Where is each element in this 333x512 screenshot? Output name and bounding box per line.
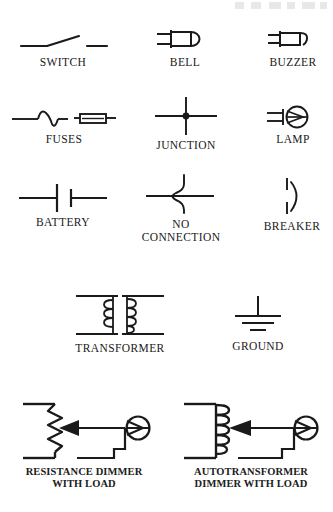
fuses-symbol: [10, 105, 118, 131]
symbol-cell-no-connection: NO CONNECTION: [126, 172, 236, 243]
resistance-dimmer-symbol: [7, 392, 162, 464]
symbol-cell-junction: JUNCTION: [134, 95, 238, 152]
symbol-cell-breaker: BREAKER: [252, 176, 332, 233]
junction-symbol: [149, 95, 223, 137]
lamp-symbol: [263, 103, 323, 131]
symbol-cell-autotransformer-dimmer: AUTOTRANSFORMER DIMMER WITH LOAD: [170, 392, 332, 489]
symbol-cell-transformer: TRANSFORMER: [58, 290, 182, 355]
switch-symbol: [17, 28, 109, 54]
symbol-label-battery: BATTERY: [36, 216, 90, 229]
symbol-label-breaker: BREAKER: [264, 220, 320, 233]
symbol-cell-bell: BELL: [140, 24, 230, 69]
symbol-label-resistance-dimmer: RESISTANCE DIMMER WITH LOAD: [26, 466, 143, 489]
symbol-cell-fuses: FUSES: [6, 105, 122, 146]
no-connection-symbol: [136, 172, 226, 216]
symbol-cell-battery: BATTERY: [6, 178, 120, 229]
bell-symbol: [149, 24, 221, 54]
symbol-label-transformer: TRANSFORMER: [75, 342, 164, 355]
symbol-label-lamp: LAMP: [276, 133, 310, 146]
symbol-cell-resistance-dimmer: RESISTANCE DIMMER WITH LOAD: [4, 392, 164, 489]
symbol-label-fuses: FUSES: [46, 133, 83, 146]
ground-symbol: [225, 292, 291, 338]
transformer-symbol: [66, 290, 174, 340]
symbol-label-buzzer: BUZZER: [269, 56, 316, 69]
symbol-cell-buzzer: BUZZER: [252, 24, 333, 69]
symbol-cell-lamp: LAMP: [254, 103, 332, 146]
faint-header-artifact: [235, 2, 327, 9]
symbol-label-junction: JUNCTION: [156, 139, 215, 152]
autotransformer-dimmer-symbol: [174, 392, 329, 464]
symbol-chart-sheet: SWITCH BELL BUZZER: [0, 0, 333, 512]
symbol-cell-switch: SWITCH: [8, 28, 118, 69]
symbol-cell-ground: GROUND: [208, 292, 308, 353]
breaker-symbol: [269, 176, 315, 218]
symbol-label-autotransformer-dimmer: AUTOTRANSFORMER DIMMER WITH LOAD: [194, 466, 308, 489]
buzzer-symbol: [262, 24, 324, 54]
symbol-label-ground: GROUND: [232, 340, 284, 353]
symbol-label-bell: BELL: [170, 56, 200, 69]
symbol-label-no-connection: NO CONNECTION: [142, 218, 221, 243]
symbol-label-switch: SWITCH: [40, 56, 86, 69]
battery-symbol: [13, 178, 113, 214]
